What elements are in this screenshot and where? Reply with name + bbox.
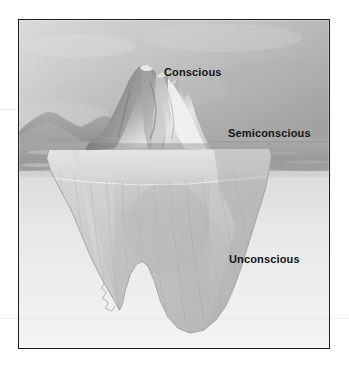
scan-artifact-line <box>0 109 18 110</box>
underwater-band <box>19 330 329 331</box>
page-canvas: Conscious Semiconscious Unconscious <box>0 0 349 372</box>
iceberg-photo-frame: Conscious Semiconscious Unconscious <box>18 19 330 349</box>
label-conscious: Conscious <box>164 66 222 78</box>
cloud-wisp <box>143 24 302 52</box>
cloud-wisp <box>21 34 136 58</box>
water-glint <box>281 161 329 164</box>
label-semiconscious: Semiconscious <box>228 127 311 139</box>
ice-texture-smudge <box>176 219 232 306</box>
label-unconscious: Unconscious <box>229 253 300 265</box>
